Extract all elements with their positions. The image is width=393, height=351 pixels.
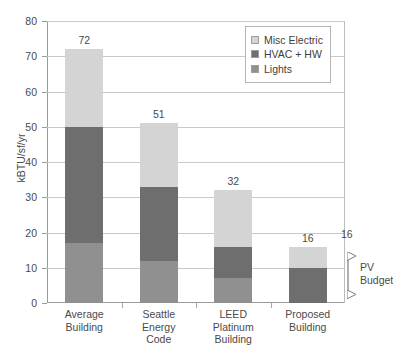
y-tick-label: 60 [7,86,37,98]
legend-swatch-icon [251,36,259,44]
x-category-label: ProposedBuilding [271,308,346,333]
bar-total-label: 16 [302,232,314,244]
x-category-label: LEEDPlatinumBuilding [196,308,271,346]
bar-segment [140,123,178,186]
pv-budget-arrow-icon [340,245,356,305]
bar-segment [214,247,252,279]
y-tick-label: 0 [7,297,37,309]
bar-segment [214,190,252,246]
bar-segment [289,268,327,303]
pv-budget-value-label: 16 [341,228,353,240]
bar-stack [140,21,178,303]
x-category-label: AverageBuilding [47,308,122,333]
bar-total-label: 72 [78,34,90,46]
y-tick-label: 30 [7,191,37,203]
y-tick-label: 50 [7,121,37,133]
y-tick-mark [42,56,47,57]
y-tick-mark [42,233,47,234]
bar-segment [140,261,178,303]
bar-total-label: 51 [153,108,165,120]
legend-item-label: Misc Electric [264,34,323,46]
y-tick-mark [42,303,47,304]
y-tick-mark [42,21,47,22]
bar-stack [65,21,103,303]
bar-segment [214,278,252,303]
y-tick-mark [42,197,47,198]
legend-item[interactable]: HVAC + HW [251,48,323,60]
y-tick-mark [42,92,47,93]
y-tick-label: 80 [7,15,37,27]
bar-segment [140,187,178,261]
bar-segment [65,127,103,243]
legend-swatch-icon [251,65,259,73]
legend-swatch-icon [251,50,259,58]
legend-item[interactable]: Misc Electric [251,34,323,46]
y-tick-mark [42,162,47,163]
y-tick-label: 40 [7,156,37,168]
bar-total-label: 32 [227,175,239,187]
pv-budget-label: PVBudget [360,261,393,287]
y-tick-label: 10 [7,262,37,274]
bar-segment [289,247,327,268]
legend-item-label: HVAC + HW [264,48,322,60]
legend-item[interactable]: Lights [251,63,323,75]
y-tick-label: 70 [7,50,37,62]
bar-segment [65,49,103,127]
bar-segment [65,243,103,303]
x-category-label: SeattleEnergyCode [122,308,197,346]
legend: Misc ElectricHVAC + HWLights [245,26,331,83]
y-tick-mark [42,127,47,128]
y-tick-label: 20 [7,227,37,239]
y-tick-mark [42,268,47,269]
legend-item-label: Lights [264,63,292,75]
